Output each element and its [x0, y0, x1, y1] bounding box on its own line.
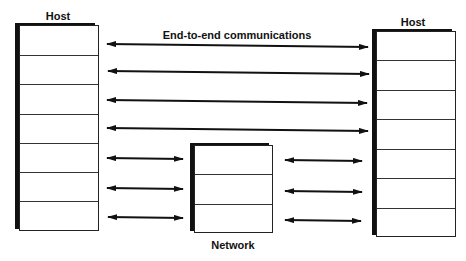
end-to-end-arrow-1 [107, 44, 368, 47]
arrows-layer [0, 0, 466, 261]
hop-arrow-right-2 [285, 191, 362, 192]
hop-arrow-left-3 [108, 217, 183, 218]
hop-arrow-right-3 [285, 220, 361, 221]
end-to-end-arrow-2 [108, 71, 369, 74]
hop-arrow-right-1 [285, 160, 362, 161]
end-to-end-arrow-4 [107, 128, 368, 131]
hop-arrow-left-2 [107, 188, 183, 189]
end-to-end-arrow-3 [107, 100, 367, 103]
hop-arrow-left-1 [107, 158, 183, 159]
